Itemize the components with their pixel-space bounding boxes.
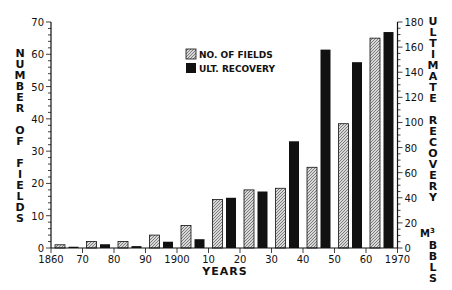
bar-recovery: [258, 192, 268, 249]
bar-fields: [339, 124, 349, 248]
bar-fields: [276, 188, 286, 248]
legend-swatch-fields: [186, 49, 196, 59]
x-tick-label: 50: [328, 254, 341, 265]
left-y-axis: 010203040506070: [31, 17, 51, 254]
bar-recovery: [195, 239, 205, 248]
x-tick-label: 30: [265, 254, 278, 265]
right-tick-label: 60: [405, 168, 418, 179]
bar-fields: [87, 242, 97, 248]
legend-label-fields: NO. OF FIELDS: [199, 50, 273, 60]
x-tick-label: 40: [297, 254, 310, 265]
right-tick-label: 80: [405, 143, 418, 154]
left-tick-label: 40: [31, 114, 44, 125]
legend-swatch-recovery: [186, 63, 196, 73]
x-axis: 186070809019001020304050601970: [38, 248, 410, 265]
right-tick-label: 140: [405, 67, 424, 78]
x-tick-label: 20: [234, 254, 247, 265]
bar-fields: [150, 235, 160, 248]
x-tick-label: 1900: [164, 254, 189, 265]
left-tick-label: 20: [31, 178, 44, 189]
x-tick-label: 90: [139, 254, 152, 265]
bar-recovery: [352, 62, 362, 248]
bar-fields: [181, 225, 191, 248]
legend-label-recovery: ULT. RECOVERY: [199, 64, 276, 74]
left-tick-label: 0: [38, 243, 44, 254]
right-axis-title: U L T I M A T E R E C O V E R Y: [427, 16, 439, 203]
right-axis-unit: M3: [420, 226, 435, 239]
left-axis-title: N U M B E R O F F I E L D S: [14, 48, 26, 224]
left-tick-label: 60: [31, 49, 44, 60]
x-tick-label: 70: [76, 254, 89, 265]
right-y-axis: 020406080100120140160180: [398, 17, 424, 254]
bar-recovery: [384, 32, 394, 248]
x-tick-label: 10: [202, 254, 215, 265]
bar-recovery: [289, 141, 299, 248]
bar-recovery: [163, 242, 173, 248]
x-axis-title: YEARS: [201, 265, 247, 278]
bar-fields: [244, 190, 254, 248]
bar-chart: 010203040506070 020406080100120140160180…: [0, 0, 452, 290]
right-tick-label: 20: [405, 218, 418, 229]
bar-recovery: [226, 198, 236, 248]
left-tick-label: 30: [31, 146, 44, 157]
left-tick-label: 10: [31, 211, 44, 222]
x-tick-label: 1860: [38, 254, 63, 265]
x-tick-label: 1970: [385, 254, 410, 265]
right-tick-label: 100: [405, 117, 424, 128]
bar-fields: [213, 200, 223, 248]
left-tick-label: 70: [31, 17, 44, 28]
right-axis-unit-bbls: B B L S: [427, 240, 439, 284]
bar-recovery: [321, 50, 331, 248]
left-tick-label: 50: [31, 82, 44, 93]
legend: NO. OF FIELDS ULT. RECOVERY: [186, 49, 276, 74]
right-tick-label: 160: [405, 42, 424, 53]
bar-fields: [307, 167, 317, 248]
right-tick-label: 180: [405, 17, 424, 28]
right-tick-label: 40: [405, 193, 418, 204]
x-tick-label: 60: [360, 254, 373, 265]
bar-fields: [370, 38, 380, 248]
bar-fields: [118, 242, 128, 248]
x-tick-label: 80: [108, 254, 121, 265]
right-tick-label: 120: [405, 92, 424, 103]
right-tick-label: 0: [405, 243, 411, 254]
